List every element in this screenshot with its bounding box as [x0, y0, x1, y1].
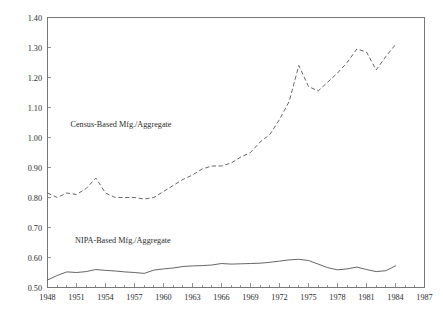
- x-tick-label: 1966: [213, 293, 229, 302]
- y-tick-label: 0.90: [28, 164, 42, 173]
- y-tick-label: 1.00: [28, 134, 42, 143]
- x-tick-label: 1960: [155, 293, 171, 302]
- line-chart: 0.500.600.700.800.901.001.101.201.301.40…: [0, 0, 443, 317]
- plot-border: [48, 18, 425, 288]
- y-tick-label: 0.70: [28, 224, 42, 233]
- series-label-2: NIPA-Based Mfg./Aggregate: [75, 236, 171, 245]
- x-tick-label: 1987: [416, 293, 432, 302]
- x-tick-label: 1954: [97, 293, 113, 302]
- y-tick-label: 0.60: [28, 254, 42, 263]
- x-tick-label: 1981: [358, 293, 374, 302]
- y-tick-label: 1.10: [28, 104, 42, 113]
- x-tick-label: 1957: [126, 293, 142, 302]
- x-tick-label: 1972: [271, 293, 287, 302]
- x-axis-ticks: 1948195119541957196019631966196919721975…: [39, 283, 432, 302]
- x-tick-label: 1978: [329, 293, 345, 302]
- series-label-1: Census-Based Mfg./Aggregate: [70, 120, 171, 129]
- y-tick-label: 1.30: [28, 44, 42, 53]
- x-tick-label: 1969: [242, 293, 258, 302]
- chart-figure: 0.500.600.700.800.901.001.101.201.301.40…: [0, 0, 443, 317]
- y-tick-label: 1.20: [28, 74, 42, 83]
- y-tick-label: 0.80: [28, 194, 42, 203]
- x-tick-label: 1963: [184, 293, 200, 302]
- x-tick-label: 1951: [68, 293, 84, 302]
- series-line-2: [48, 259, 396, 280]
- x-tick-label: 1975: [300, 293, 316, 302]
- x-tick-label: 1948: [39, 293, 55, 302]
- y-tick-label: 1.40: [28, 14, 42, 23]
- y-tick-label: 0.50: [28, 284, 42, 293]
- plot-frame: [48, 18, 425, 288]
- x-tick-label: 1984: [387, 293, 403, 302]
- series-annotations: Census-Based Mfg./AggregateNIPA-Based Mf…: [70, 120, 171, 245]
